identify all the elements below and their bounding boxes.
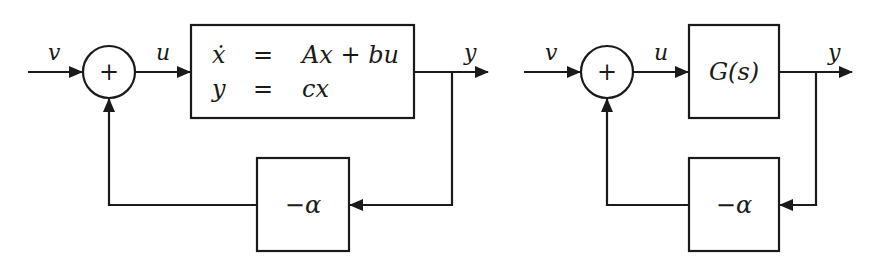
state-space-block: ẋ = Ax + bu y = cx (191, 25, 414, 118)
plus-sign: + (99, 58, 119, 86)
right-diagram: v + u G(s) y −α (524, 25, 852, 251)
transfer-function-block: G(s) (689, 25, 779, 118)
output-label: y (463, 40, 477, 65)
control-label: u (156, 40, 170, 65)
left-diagram: v + u ẋ = Ax + bu y = cx y (28, 25, 488, 251)
summing-junction: + (581, 46, 633, 98)
plus-sign: + (597, 58, 617, 86)
feedback-gain-block: −α (689, 158, 779, 251)
feedback-branch (350, 72, 452, 205)
block-diagram-canvas: v + u ẋ = Ax + bu y = cx y (0, 0, 876, 265)
feedback-return (607, 99, 689, 205)
gain-label: −α (716, 191, 752, 219)
eq2-rhs: cx (302, 75, 329, 103)
feedback-gain-block: −α (257, 158, 349, 251)
eq1-rhs: Ax + bu (300, 41, 399, 69)
transfer-function-label: G(s) (709, 58, 759, 86)
eq1-equals: = (253, 41, 273, 69)
eq2-equals: = (253, 75, 273, 103)
control-label: u (654, 40, 668, 65)
input-label: v (48, 40, 61, 65)
eq2-lhs: y (211, 75, 226, 103)
input-label: v (545, 40, 558, 65)
eq1-lhs: ẋ (212, 41, 226, 69)
summing-junction: + (83, 46, 135, 98)
block-diagrams: v + u ẋ = Ax + bu y = cx y (0, 0, 876, 265)
feedback-branch (780, 72, 816, 205)
feedback-return (109, 99, 257, 205)
output-label: y (827, 40, 841, 65)
gain-label: −α (285, 191, 321, 219)
